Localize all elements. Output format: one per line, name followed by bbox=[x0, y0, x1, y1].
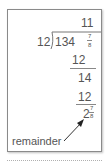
remainder-frac-num: 7 bbox=[90, 105, 93, 111]
step1-result: 14 bbox=[78, 72, 91, 84]
arrow-icon bbox=[62, 118, 88, 144]
dividend-whole: 134 bbox=[55, 36, 75, 48]
divisor: 12 bbox=[37, 36, 50, 48]
frac-bar-2 bbox=[89, 112, 94, 113]
quotient: 11 bbox=[81, 17, 93, 29]
frac-bar bbox=[87, 40, 92, 41]
dividend-frac-num: 7 bbox=[88, 33, 91, 39]
dividend-frac-den: 8 bbox=[88, 42, 91, 48]
dotted-divider bbox=[7, 160, 102, 161]
subtract-rule-1 bbox=[70, 68, 96, 69]
remainder-frac-den: 8 bbox=[90, 113, 93, 119]
step2-subtract: 12 bbox=[78, 91, 91, 103]
step1-subtract: 12 bbox=[72, 54, 85, 66]
remainder-label: remainder bbox=[12, 135, 62, 147]
